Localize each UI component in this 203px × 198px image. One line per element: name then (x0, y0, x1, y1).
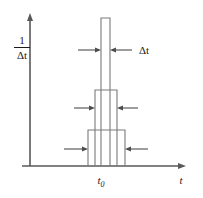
narrow-left-arrowhead-icon (95, 47, 101, 52)
x-axis-label: t (179, 174, 183, 186)
narrow-pulse-width-marker (78, 47, 132, 52)
middle-right-arrowhead-icon (117, 105, 123, 110)
y-axis-denominator-label: Δt (17, 49, 27, 61)
middle-pulse (95, 90, 117, 166)
wide-right-arrowhead-icon (125, 146, 131, 151)
delta-function-plot: Δt 1 Δt t0 t (0, 0, 203, 198)
dimension-markers-group (64, 47, 148, 151)
pulses-group (88, 18, 125, 166)
middle-left-arrowhead-icon (89, 105, 95, 110)
axes-group (22, 13, 186, 169)
middle-pulse-width-marker (74, 105, 138, 110)
narrowest-pulse (101, 18, 110, 166)
y-axis-arrowhead-icon (27, 13, 33, 21)
y-axis-label: 1 Δt (14, 34, 30, 61)
wide-left-arrowhead-icon (82, 146, 88, 151)
x-axis-arrowhead-icon (178, 163, 186, 169)
x-axis-t0-label: t0 (97, 174, 104, 189)
y-axis-numerator-label: 1 (19, 34, 25, 46)
wide-pulse-width-marker (64, 146, 148, 151)
narrow-right-arrowhead-icon (110, 47, 116, 52)
figure-container: Δt 1 Δt t0 t (0, 0, 203, 198)
delta-t-annotation-label: Δt (139, 44, 149, 56)
widest-pulse (88, 130, 125, 166)
